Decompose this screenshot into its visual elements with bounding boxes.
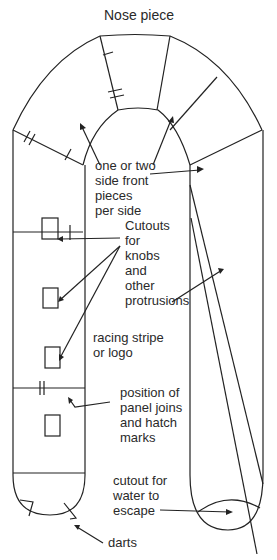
outer-arch	[13, 35, 262, 131]
right-strip	[190, 130, 263, 530]
cutout-box-2	[43, 288, 58, 308]
cutout-box-3	[45, 347, 60, 368]
inner-arch	[83, 108, 190, 165]
label-water-cutout: cutout for water to escape	[113, 473, 167, 518]
label-racing-stripe: racing stripe or logo	[93, 330, 164, 360]
title-nose-piece: Nose piece	[104, 8, 174, 23]
label-panel-joins: position of panel joins and hatch marks	[120, 385, 182, 445]
dart-right	[64, 503, 76, 519]
water-cutout	[198, 500, 260, 512]
cutout-box-4	[45, 415, 60, 436]
label-cutouts: Cutouts for knobs and other protrusions	[125, 218, 189, 308]
label-side-front-pieces: one or two side front pieces per side	[95, 158, 156, 218]
label-darts: darts	[108, 535, 137, 550]
cutout-box-1	[42, 218, 58, 239]
left-strip	[13, 130, 85, 515]
